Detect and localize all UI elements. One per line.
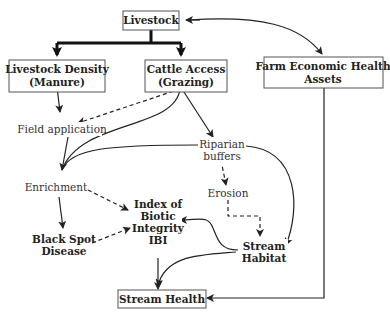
node-field-application: Field application [17,122,107,136]
node-farm-economic-health: Farm Economic Health Assets [255,57,390,88]
node-cattle-access-line2: (Grazing) [158,76,214,88]
diagram-svg: Livestock Livestock Density (Manure) Cat… [0,0,390,319]
node-riparian-line1: Riparian [199,138,245,150]
node-erosion: Erosion [208,186,249,200]
node-stream-habitat-line1: Stream [243,240,286,252]
edge-livestock-farm-economic [188,19,322,54]
edge-livestock-to-density-and-access [57,29,181,55]
node-riparian-buffers: Riparian buffers [198,137,246,164]
node-black-spot-line2: Disease [41,245,86,257]
node-stream-habitat: Stream Habitat [240,239,288,265]
node-ibi-line1: Index of [134,198,183,210]
node-erosion-label: Erosion [208,187,249,199]
node-riparian-line2: buffers [203,150,241,162]
node-livestock-density-line2: (Manure) [29,76,85,88]
edge-riparian-to-enrichment [62,145,198,170]
edge-riparian-to-habitat [246,146,294,245]
node-black-spot-line1: Black Spot [32,233,96,245]
node-cattle-access: Cattle Access (Grazing) [145,60,227,92]
node-stream-habitat-line2: Habitat [242,252,287,264]
node-ibi-line4: IBI [149,234,168,246]
node-ibi-line2: Biotic [140,210,175,222]
node-livestock: Livestock [123,11,180,30]
node-livestock-density-line1: Livestock Density [5,63,109,75]
edge-habitat-to-stream-health [158,252,236,286]
node-ibi-line3: Integrity [132,222,185,234]
node-livestock-label: Livestock [123,14,179,26]
edge-cattle-to-riparian [182,89,213,137]
diagram-canvas: Livestock Livestock Density (Manure) Cat… [0,0,390,319]
edge-cattle-to-field-application [78,89,180,123]
node-farm-economic-line2: Assets [303,73,342,85]
edge-habitat-to-ibi [180,219,238,250]
node-farm-economic-line1: Farm Economic Health [255,60,390,72]
edge-enrichment-to-ibi [88,190,128,210]
node-field-application-label: Field application [17,123,107,135]
node-stream-health-label: Stream Health [119,293,205,305]
edge-black-spot-to-ibi [92,228,130,243]
node-black-spot-disease: Black Spot Disease [32,232,96,258]
node-ibi: Index of Biotic Integrity IBI [132,198,185,251]
node-enrichment: Enrichment [25,180,88,194]
edge-erosion-to-habitat [228,200,260,236]
node-stream-health: Stream Health [118,290,206,308]
node-cattle-access-line1: Cattle Access [147,63,226,75]
node-livestock-density: Livestock Density (Manure) [5,60,109,92]
edge-enrichment-to-black-spot [59,197,63,228]
node-enrichment-label: Enrichment [25,181,88,193]
